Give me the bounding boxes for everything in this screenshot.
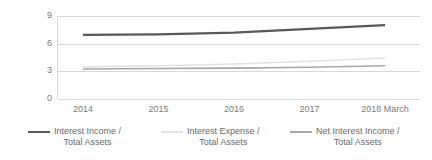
gridline-0	[58, 99, 420, 100]
x-axis-labels: 20142015201620172018 March	[58, 104, 420, 118]
x-tick-label: 2017	[299, 104, 319, 114]
x-tick-label: 2015	[148, 104, 168, 114]
legend-swatch-line-icon	[290, 131, 312, 133]
line-chart: 0369 20142015201620172018 March Interest…	[0, 0, 432, 160]
x-tick-label: 2018 March	[361, 104, 409, 114]
legend-label: Net Interest Income / Total Assets	[316, 126, 400, 148]
plot-area	[58, 16, 420, 99]
legend-label: Interest Income / Total Assets	[54, 126, 121, 148]
legend-swatch-line-icon	[161, 131, 183, 133]
legend-item[interactable]: Net Interest Income / Total Assets	[290, 126, 400, 148]
y-tick-label: 0	[30, 94, 52, 103]
legend-swatch-line-icon	[28, 131, 50, 133]
series-line-0	[83, 25, 385, 35]
y-tick-label: 9	[30, 11, 52, 20]
x-tick-label: 2016	[224, 104, 244, 114]
legend-label: Interest Expense / Total Assets	[187, 126, 260, 148]
y-tick-label: 3	[30, 66, 52, 75]
chart-legend: Interest Income / Total AssetsInterest E…	[28, 126, 418, 158]
series-line-1	[83, 58, 385, 67]
series-lines	[58, 16, 420, 99]
y-tick-label: 6	[30, 39, 52, 48]
x-tick-label: 2014	[73, 104, 93, 114]
legend-item[interactable]: Interest Expense / Total Assets	[161, 126, 260, 148]
legend-item[interactable]: Interest Income / Total Assets	[28, 126, 121, 148]
